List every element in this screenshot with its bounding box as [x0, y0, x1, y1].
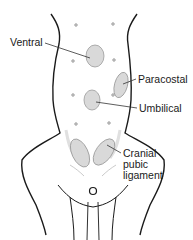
ventral-hernia [86, 45, 104, 67]
inner-leg-right [112, 197, 116, 240]
groin-outline [58, 185, 128, 207]
torso-right-outline [125, 14, 164, 235]
prepuce-line-right [98, 202, 99, 240]
prepuce-line-left [87, 202, 88, 240]
inner-leg-left [70, 197, 74, 240]
label-paracostal: Paracostal [138, 74, 188, 85]
label-umbilical: Umbilical [139, 103, 182, 114]
anus-icon [90, 188, 97, 195]
label-ligament: ligament [123, 170, 163, 181]
umbilical-hernia [84, 90, 100, 110]
label-ventral: Ventral [10, 37, 43, 48]
ventral-leader [45, 43, 90, 58]
